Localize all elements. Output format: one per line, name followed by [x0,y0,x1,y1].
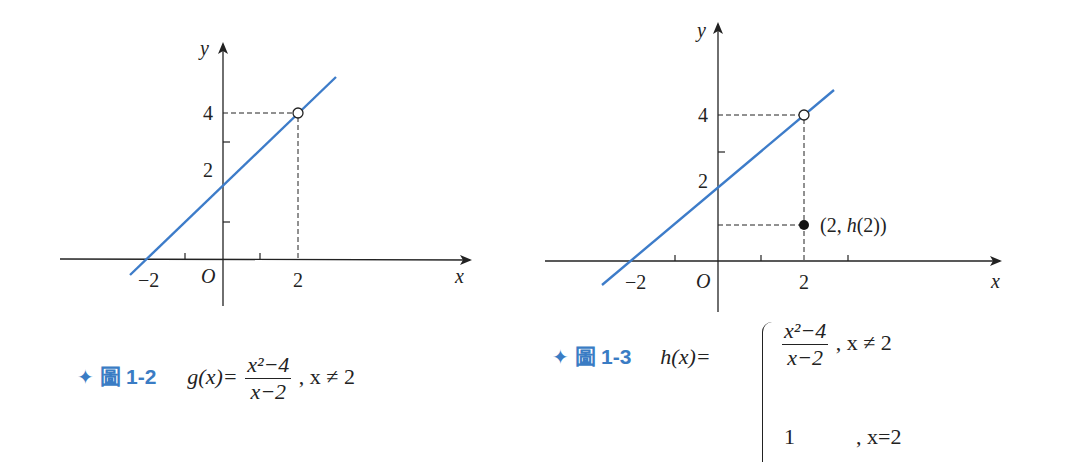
svg-text:2: 2 [799,271,809,293]
filled-point [799,220,809,230]
figure-number: 1-3 [601,345,631,368]
svg-text:−2: −2 [625,271,646,293]
piecewise-brace [762,322,775,462]
svg-text:−2: −2 [138,269,159,291]
svg-text:y: y [695,19,706,42]
star-icon: ✦ [77,366,94,388]
svg-text:2: 2 [203,159,213,181]
svg-text:2: 2 [698,170,708,192]
figure-word: 圖 [100,365,121,388]
star-icon: ✦ [552,346,569,368]
piece-1: x²−4 x−2 , x ≠ 2 [780,318,892,371]
svg-text:4: 4 [203,102,213,124]
svg-text:4: 4 [698,104,708,126]
svg-text:O: O [696,270,710,292]
chart-h: y 4 2 O −2 2 x (2, h(2)) [545,19,1000,312]
caption-fig-1-3: ✦ 圖 1-3 h(x)= [552,340,711,370]
condition: , x ≠ 2 [299,364,355,389]
figure-word: 圖 [575,345,596,368]
piece-2: 1 , x=2 [784,424,901,450]
svg-text:(2, h(2)): (2, h(2)) [820,214,887,237]
svg-text:O: O [201,265,215,287]
formula-lhs: g(x)= [187,364,237,389]
svg-text:2: 2 [293,269,303,291]
open-point [799,110,809,120]
svg-text:x: x [990,270,1000,292]
caption-fig-1-2: ✦ 圖 1-2 g(x)= x²−4 x−2 , x ≠ 2 [77,352,355,405]
fraction: x²−4 x−2 [245,352,291,405]
svg-text:x: x [454,265,464,287]
open-point [293,108,303,118]
figure-number: 1-2 [126,365,156,388]
formula-lhs: h(x)= [660,344,710,369]
chart-g: y 4 2 O −2 2 x [60,37,470,306]
graph-line [130,77,336,275]
svg-text:y: y [198,37,209,60]
x-axis [60,259,470,260]
